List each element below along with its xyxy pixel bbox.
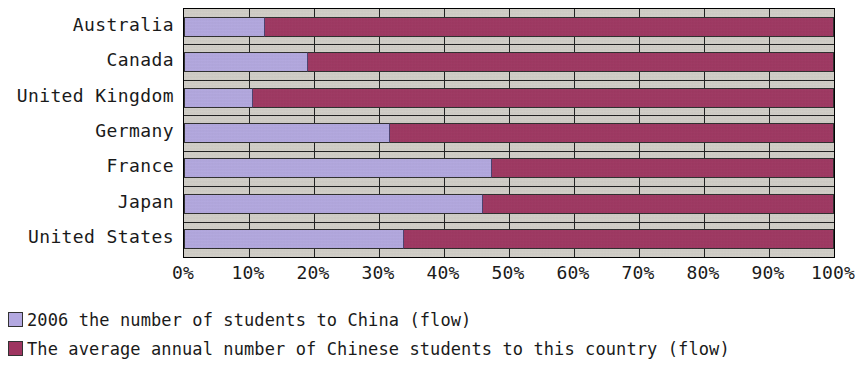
category-label: Germany bbox=[0, 120, 174, 141]
category-separator bbox=[184, 186, 834, 187]
category-label: France bbox=[0, 155, 174, 176]
bar-segment bbox=[184, 158, 492, 178]
x-axis-tick-labels: 0%10%20%30%40%50%60%70%80%90%100% bbox=[183, 258, 835, 286]
category-separator bbox=[184, 222, 834, 223]
bar-segment bbox=[390, 123, 834, 143]
category-label: Canada bbox=[0, 49, 174, 70]
legend-color-swatch bbox=[8, 312, 23, 327]
category-separator bbox=[184, 44, 834, 45]
bar-segment bbox=[404, 229, 834, 249]
x-axis-tick-label: 80% bbox=[686, 262, 719, 283]
x-axis-tick-label: 10% bbox=[231, 262, 264, 283]
bar-segment bbox=[184, 52, 308, 72]
x-axis-tick-label: 90% bbox=[751, 262, 784, 283]
legend-color-swatch bbox=[8, 341, 23, 356]
bar-segment bbox=[184, 17, 265, 37]
bar-segment bbox=[184, 194, 483, 214]
legend-item: 2006 the number of students to China (fl… bbox=[8, 305, 856, 334]
category-separator bbox=[184, 80, 834, 81]
legend-label: The average annual number of Chinese stu… bbox=[27, 339, 730, 359]
bar-segment bbox=[308, 52, 835, 72]
category-label: Japan bbox=[0, 191, 174, 212]
x-axis-tick-label: 20% bbox=[296, 262, 329, 283]
bar-segment bbox=[184, 229, 404, 249]
category-label: Australia bbox=[0, 14, 174, 35]
bar-segment bbox=[184, 123, 390, 143]
chart-legend: 2006 the number of students to China (fl… bbox=[8, 305, 856, 363]
x-axis-tick-label: 50% bbox=[491, 262, 524, 283]
x-axis-tick-label: 30% bbox=[361, 262, 394, 283]
bar-segment bbox=[265, 17, 834, 37]
plot-area bbox=[183, 8, 835, 258]
bar-segment bbox=[483, 194, 834, 214]
stacked-bar-chart: AustraliaCanadaUnited KingdomGermanyFran… bbox=[0, 0, 858, 367]
bar-segment bbox=[184, 88, 253, 108]
x-axis-tick-label: 70% bbox=[621, 262, 654, 283]
x-axis-tick-label: 100% bbox=[811, 262, 855, 283]
x-axis-tick-label: 40% bbox=[426, 262, 459, 283]
category-label: United States bbox=[0, 226, 174, 247]
x-axis-tick-label: 60% bbox=[556, 262, 589, 283]
category-label: United Kingdom bbox=[0, 85, 174, 106]
legend-item: The average annual number of Chinese stu… bbox=[8, 334, 856, 363]
legend-label: 2006 the number of students to China (fl… bbox=[27, 310, 471, 330]
bar-segment bbox=[253, 88, 834, 108]
x-axis-tick-label: 0% bbox=[172, 262, 194, 283]
category-separator bbox=[184, 151, 834, 152]
plot-inner bbox=[184, 9, 834, 257]
bar-segment bbox=[492, 158, 834, 178]
category-separator bbox=[184, 115, 834, 116]
category-axis-labels: AustraliaCanadaUnited KingdomGermanyFran… bbox=[0, 8, 178, 256]
